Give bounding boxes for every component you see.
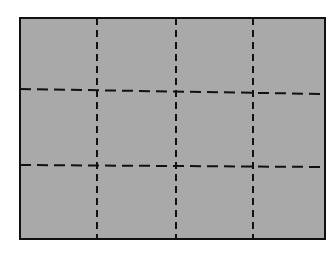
grid-diagram [0, 0, 336, 254]
outer-rectangle [20, 18, 325, 239]
